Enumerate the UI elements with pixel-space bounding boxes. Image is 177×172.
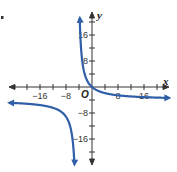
problem-marker — [1, 16, 4, 19]
arrow-down-icon — [71, 159, 78, 166]
x-axis-label: x — [162, 75, 169, 87]
y-axis-label: y — [95, 9, 102, 21]
x-tick-label: −16 — [32, 91, 47, 101]
y-tick-label: −16 — [73, 134, 88, 144]
arrow-right-icon — [164, 94, 171, 101]
origin-label: O — [81, 89, 89, 100]
curve-right-branch — [80, 19, 169, 98]
arrow-up-icon — [76, 16, 83, 23]
arrow-left-icon — [7, 99, 14, 106]
x-tick-label: −8 — [61, 91, 71, 101]
graph: −16−8816168−8−16 x y O — [0, 0, 177, 172]
y-tick-label: −8 — [78, 108, 88, 118]
curve-left-branch — [10, 103, 74, 164]
